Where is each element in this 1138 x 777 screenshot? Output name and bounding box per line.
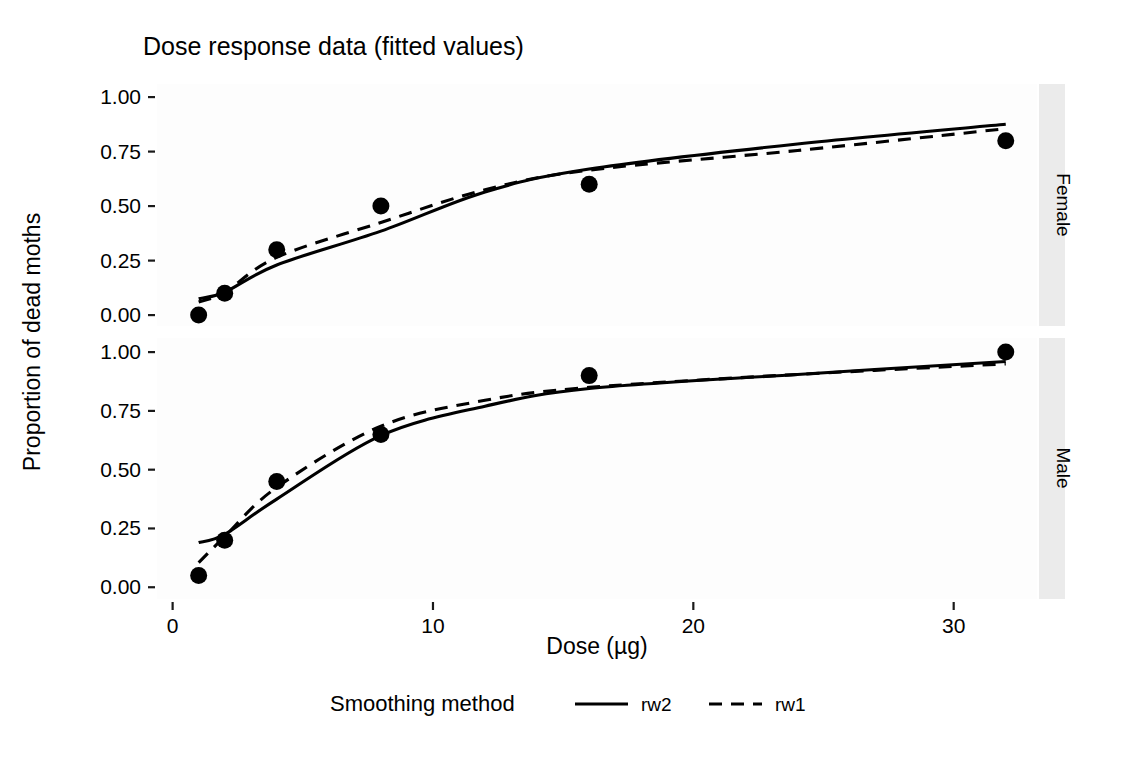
data-point bbox=[216, 285, 233, 302]
data-point bbox=[581, 176, 598, 193]
data-point bbox=[190, 567, 207, 584]
data-point bbox=[581, 367, 598, 384]
data-point bbox=[372, 426, 389, 443]
x-tick-label: 0 bbox=[167, 614, 179, 637]
data-point bbox=[997, 132, 1014, 149]
facet-strip-male-label: Male bbox=[1053, 447, 1074, 488]
legend-label-rw2: rw2 bbox=[641, 694, 672, 715]
x-tick-label: 20 bbox=[682, 614, 705, 637]
chart-title: Dose response data (fitted values) bbox=[143, 32, 524, 60]
data-point bbox=[372, 198, 389, 215]
y-axis-label: Proportion of dead moths bbox=[19, 213, 45, 471]
legend-title: Smoothing method bbox=[330, 691, 515, 716]
dose-response-chart: Dose response data (fitted values) Femal… bbox=[0, 0, 1138, 777]
x-tick-label: 30 bbox=[942, 614, 965, 637]
panel-background-female bbox=[157, 84, 1037, 326]
y-tick-label: 0.00 bbox=[100, 303, 141, 326]
legend-label-rw1: rw1 bbox=[775, 694, 806, 715]
data-point bbox=[268, 241, 285, 258]
y-tick-label: 0.00 bbox=[100, 575, 141, 598]
y-tick-label: 1.00 bbox=[100, 85, 141, 108]
x-tick-label: 10 bbox=[421, 614, 444, 637]
data-point bbox=[997, 344, 1014, 361]
chart-container: Dose response data (fitted values) Femal… bbox=[0, 0, 1138, 777]
data-point bbox=[216, 532, 233, 549]
data-point bbox=[268, 473, 285, 490]
facet-strip-female-label: Female bbox=[1053, 173, 1074, 236]
y-tick-label: 0.25 bbox=[100, 516, 141, 539]
y-tick-label: 0.75 bbox=[100, 140, 141, 163]
y-tick-label: 1.00 bbox=[100, 340, 141, 363]
y-tick-label: 0.25 bbox=[100, 249, 141, 272]
y-tick-label: 0.50 bbox=[100, 458, 141, 481]
y-tick-label: 0.50 bbox=[100, 194, 141, 217]
y-tick-label: 0.75 bbox=[100, 399, 141, 422]
x-axis-label: Dose (µg) bbox=[546, 633, 647, 659]
data-point bbox=[190, 307, 207, 324]
